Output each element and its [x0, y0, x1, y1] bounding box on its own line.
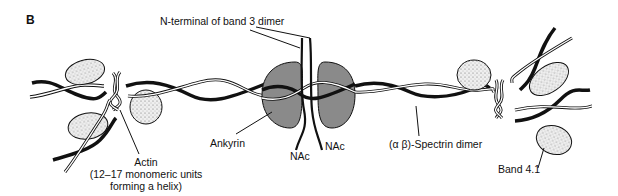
- band41-icon: [457, 60, 491, 90]
- label-band3-n-terminal: N-terminal of band 3 dimer: [160, 15, 284, 27]
- label-ankyrin: Ankyrin: [210, 137, 245, 149]
- label-actin: Actin (12–17 monomeric units forming a h…: [86, 156, 206, 192]
- band41-icon: [63, 55, 108, 89]
- label-actin-line1: Actin: [86, 156, 206, 168]
- label-nac-left: NAc: [290, 150, 310, 162]
- ankyrin-left-icon: [262, 62, 302, 128]
- label-band41: Band 4.1: [498, 163, 540, 175]
- label-actin-line2: (12–17 monomeric units: [86, 168, 206, 180]
- label-spectrin-dimer: (α β)-Spectrin dimer: [389, 138, 482, 150]
- label-actin-line3: forming a helix): [86, 180, 206, 192]
- actin-filament-left: [110, 72, 120, 110]
- actin-filament-right: [496, 80, 503, 118]
- label-nac-right: NAc: [325, 140, 345, 152]
- band41-icon: [532, 121, 575, 160]
- spectrin-dimer-far-left: [30, 82, 106, 99]
